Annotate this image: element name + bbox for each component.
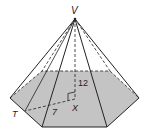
label-center: X [71, 103, 79, 113]
hidden-lateral-edge-right [75, 19, 110, 71]
label-height: 12 [78, 78, 88, 88]
apex-point [74, 18, 77, 21]
pyramid-diagram: V 12 X 7 T [0, 0, 151, 134]
label-apex: V [71, 5, 79, 16]
label-base-point: T [12, 109, 19, 119]
hidden-lateral-edge-left [42, 19, 75, 71]
